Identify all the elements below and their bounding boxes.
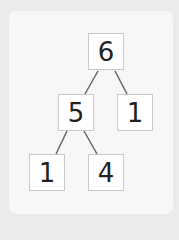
- node-left-left: 1: [29, 154, 65, 191]
- node-right: 1: [117, 94, 153, 131]
- node-left: 5: [58, 94, 94, 131]
- node-root: 6: [88, 33, 124, 70]
- node-left-right: 4: [88, 154, 124, 191]
